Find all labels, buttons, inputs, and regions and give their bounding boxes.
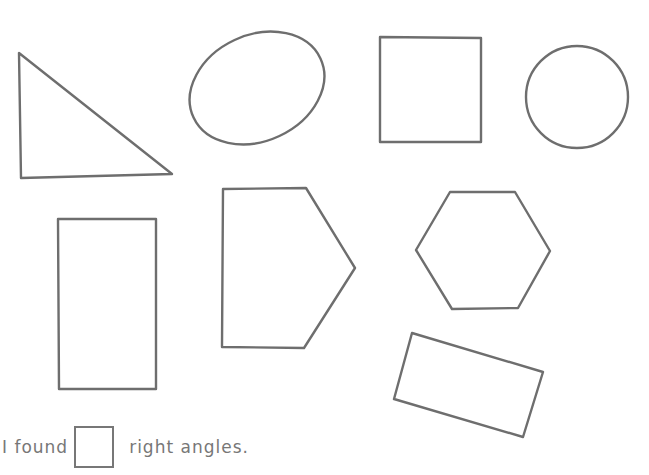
oval-shape: [171, 10, 343, 165]
rectangle-shape: [58, 219, 156, 389]
answer-sentence: I found right angles.: [2, 424, 249, 470]
hexagon-shape: [416, 192, 550, 309]
square-shape: [380, 37, 481, 142]
pentagon-shape: [222, 188, 355, 348]
right-triangle-shape: [19, 53, 172, 178]
tilted-rectangle-shape: [394, 333, 543, 437]
answer-prefix: I found: [2, 437, 68, 457]
answer-suffix: right angles.: [129, 437, 249, 457]
shapes-canvas: [0, 0, 649, 475]
circle-shape: [526, 46, 628, 148]
answer-box[interactable]: [74, 426, 114, 468]
